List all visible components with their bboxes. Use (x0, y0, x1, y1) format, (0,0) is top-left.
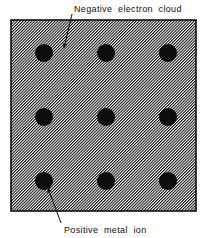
positive-metal-ion (159, 108, 177, 126)
positive-metal-ion (35, 108, 53, 126)
positive-metal-ion (35, 44, 53, 62)
label-negative-electron-cloud: Negative electron cloud (74, 4, 182, 14)
figure-root: Negative electron cloud Positive metal i… (0, 0, 208, 238)
label-positive-metal-ion: Positive metal ion (64, 225, 147, 235)
positive-metal-ion (35, 172, 53, 190)
positive-metal-ion (97, 44, 115, 62)
positive-metal-ion (97, 108, 115, 126)
positive-metal-ion (97, 172, 115, 190)
positive-metal-ion (159, 172, 177, 190)
positive-metal-ion (159, 44, 177, 62)
metallic-bonding-diagram: Negative electron cloud Positive metal i… (0, 0, 208, 238)
